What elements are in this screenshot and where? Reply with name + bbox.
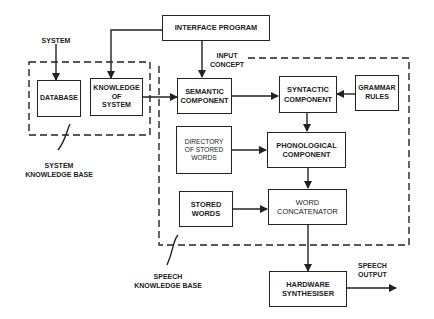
grammar-rules-box: GRAMMAR RULES: [355, 75, 399, 111]
semantic-component-box: SEMANTIC COMPONENT: [177, 78, 232, 114]
input-concept-label: INPUT CONCEPT: [207, 51, 247, 69]
system-kb-callout: [58, 124, 70, 150]
word-concatenator-box: WORD CONCATENATOR: [268, 189, 347, 225]
database-box: DATABASE: [37, 80, 81, 117]
stored-words-box: STORED WORDS: [179, 191, 233, 227]
knowledge-of-system-box: KNOWLEDGE OF SYSTEM: [90, 78, 143, 116]
speech-output-label: SPEECH OUTPUT: [358, 261, 398, 279]
system-label: SYSTEM: [38, 36, 74, 45]
speech-knowledge-base-label: SPEECH KNOWLEDGE BASE: [127, 272, 209, 290]
system-knowledge-base-label: SYSTEM KNOWLEDGE BASE: [18, 161, 100, 179]
speech-kb-callout: [167, 235, 178, 265]
phonological-component-box: PHONOLOGICAL COMPONENT: [267, 132, 346, 168]
hardware-synthesiser-box: HARDWARE SYNTHESISER: [269, 271, 347, 307]
interface-program-box: INTERFACE PROGRAM: [162, 15, 270, 41]
directory-of-stored-words-box: DIRECTORY OF STORED WORDS: [176, 126, 232, 174]
syntactic-component-box: SYNTACTIC COMPONENT: [279, 76, 337, 113]
